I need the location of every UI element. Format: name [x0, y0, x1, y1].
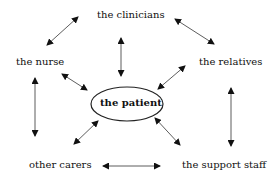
node-nurse: the nurse	[16, 56, 64, 67]
node-relatives: the relatives	[199, 56, 262, 67]
arrow-support-patient	[155, 118, 180, 145]
arrow-nurse-patient	[62, 74, 87, 90]
stakeholder-diagram: the clinicians the nurse the relatives t…	[0, 0, 271, 180]
node-clinicians: the clinicians	[97, 9, 165, 20]
arrow-carers-patient	[74, 121, 98, 144]
arrows-layer	[0, 0, 271, 180]
node-support-staff: the support staff	[182, 159, 266, 170]
node-patient: the patient	[100, 97, 162, 108]
arrow-clinicians-relatives	[175, 19, 214, 44]
node-carers: other carers	[29, 159, 92, 170]
arrow-clinicians-nurse	[47, 17, 78, 45]
arrow-relatives-patient	[158, 66, 185, 89]
